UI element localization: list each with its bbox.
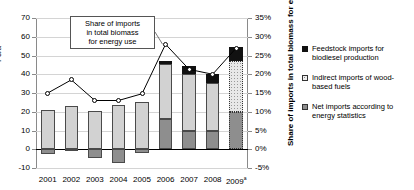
y-axis-left-tick-label: 30	[2, 89, 30, 97]
annotation-line-3: for energy use	[74, 37, 151, 46]
line-marker-open-circle-icon	[210, 72, 215, 77]
y-axis-right-tick	[248, 56, 252, 57]
annotation-line-1: Share of imports	[74, 19, 151, 28]
bar-segment-indirect-imports	[135, 102, 149, 149]
bar-segment-indirect-imports	[229, 61, 243, 112]
line-marker-open-circle-icon	[163, 42, 168, 47]
bar-column	[159, 18, 173, 168]
bar-segment-indirect-imports	[206, 83, 220, 131]
bar-segment-net-imports	[88, 149, 102, 157]
y-axis-right-tick-label: 5%	[255, 127, 285, 135]
y-axis-right-title-text: Share of imports in total biomass for en…	[286, 18, 295, 146]
line-marker-open-circle-icon	[140, 91, 145, 96]
y-axis-right-tick-label: 25%	[255, 52, 285, 60]
y-axis-left-tick-label: 0	[2, 145, 30, 153]
bar-segment-indirect-imports	[41, 110, 55, 149]
legend-label-indirect-line1: Indirect imports of wood-	[312, 73, 414, 82]
line-marker-open-circle-icon	[234, 46, 239, 51]
bar-segment-feedstock-imports	[159, 61, 173, 64]
y-axis-right-tick-label: 0%	[255, 145, 285, 153]
y-axis-right-tick	[248, 112, 252, 113]
bar-segment-indirect-imports	[159, 64, 173, 118]
y-axis-left-tick	[32, 168, 36, 169]
bar-segment-net-imports	[182, 131, 196, 150]
bar-segment-net-imports	[135, 149, 149, 153]
y-axis-right-tick	[248, 168, 252, 169]
y-axis-left-tick	[32, 131, 36, 132]
annotation-callout: Share of imports in total biomass for en…	[70, 16, 155, 49]
y-axis-left-tick-label: 20	[2, 108, 30, 116]
bar-segment-indirect-imports	[182, 74, 196, 130]
legend-swatch-gray-square-icon	[302, 104, 308, 110]
legend-item-indirect: Indirect imports of wood- based fuels	[302, 73, 414, 91]
gridline	[36, 168, 248, 169]
y-axis-right-tick	[248, 18, 252, 19]
y-axis-right-tick	[248, 93, 252, 94]
y-axis-left-tick-label: 70	[2, 14, 30, 22]
y-axis-left-tick	[32, 149, 36, 150]
y-axis-left-tick-label: 40	[2, 70, 30, 78]
chart-figure: PJ/a Share of imports in total biomass f…	[0, 0, 414, 190]
bar-segment-net-imports	[159, 119, 173, 150]
y-axis-left-tick	[32, 18, 36, 19]
legend-label-feedstock-line2: biodiesel production	[312, 53, 414, 62]
y-axis-right-tick-label: 20%	[255, 70, 285, 78]
line-marker-open-circle-icon	[116, 98, 121, 103]
y-axis-right-tick	[248, 74, 252, 75]
bar-segment-net-imports	[229, 112, 243, 150]
bar-column	[206, 18, 220, 168]
y-axis-left-tick-label: 50	[2, 52, 30, 60]
bar-segment-net-imports	[65, 149, 79, 151]
legend-item-feedstock: Feedstock imports for biodiesel producti…	[302, 44, 414, 62]
y-axis-right-tick-label: 35%	[255, 14, 285, 22]
legend-swatch-dotted-square-icon	[302, 75, 308, 81]
bar-segment-net-imports	[41, 149, 55, 154]
y-axis-left-tick	[32, 93, 36, 94]
legend-label-indirect-line2: based fuels	[312, 82, 414, 91]
y-axis-left-tick	[32, 74, 36, 75]
legend-label-net-line2: energy statistics	[312, 111, 414, 120]
legend-swatch-black-square-icon	[302, 46, 308, 52]
y-axis-left-tick	[32, 112, 36, 113]
y-axis-right-tick-label: -5%	[255, 164, 285, 172]
bar-column	[229, 18, 243, 168]
line-marker-open-circle-icon	[45, 91, 50, 96]
y-axis-right-tick	[248, 131, 252, 132]
y-axis-left-tick-label: 10	[2, 127, 30, 135]
y-axis-right-tick	[248, 37, 252, 38]
x-axis-tick-label: 2009a	[221, 175, 251, 186]
line-marker-open-circle-icon	[187, 67, 192, 72]
bar-segment-net-imports	[112, 149, 126, 163]
bar-column	[182, 18, 196, 168]
y-axis-right-tick-label: 30%	[255, 33, 285, 41]
y-axis-right-tick-label: 10%	[255, 108, 285, 116]
legend-item-net: Net imports according to energy statisti…	[302, 102, 414, 120]
annotation-line-2: in total biomass	[74, 28, 151, 37]
y-axis-left-tick	[32, 56, 36, 57]
y-axis-left-tick-label: 60	[2, 33, 30, 41]
bar-segment-net-imports	[206, 131, 220, 149]
y-axis-right-tick	[248, 149, 252, 150]
legend-label-net-line1: Net imports according to	[312, 102, 414, 111]
legend-label-feedstock-line1: Feedstock imports for	[312, 44, 414, 53]
y-axis-left-tick	[32, 37, 36, 38]
y-axis-left-tick-label: -10	[2, 164, 30, 172]
bar-segment-indirect-imports	[112, 105, 126, 149]
bar-segment-indirect-imports	[65, 106, 79, 149]
y-axis-right-tick-label: 15%	[255, 89, 285, 97]
bar-segment-indirect-imports	[88, 111, 102, 149]
chart-legend: Feedstock imports for biodiesel producti…	[302, 44, 414, 131]
